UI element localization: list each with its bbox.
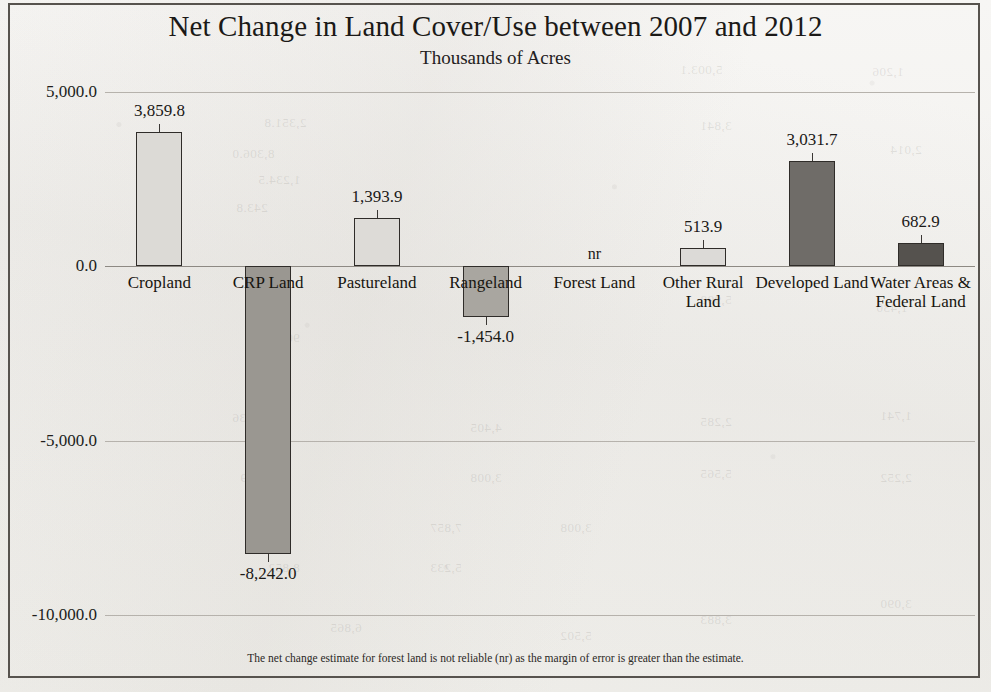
bar-value-label: 3,031.7 — [786, 130, 837, 150]
value-leader-tick — [159, 124, 160, 132]
category-label: Rangeland — [427, 274, 544, 292]
value-leader-tick — [921, 235, 922, 243]
bar-value-label: 682.9 — [902, 212, 940, 232]
gridline — [105, 92, 975, 93]
category-label: Developed Land — [754, 274, 871, 292]
bar-cropland — [136, 132, 182, 267]
bar-value-label: -1,454.0 — [457, 327, 514, 347]
bar-water-areas-federal-land — [898, 243, 944, 267]
plot-area: 5,000.00.0-5,000.0-10,000.0 3,859.8-8,24… — [105, 92, 975, 615]
zero-axis-line — [105, 266, 975, 267]
bar-value-label: 1,393.9 — [351, 187, 402, 207]
category-label: CRP Land — [210, 274, 327, 292]
value-leader-tick — [703, 240, 704, 248]
bar-value-label: 3,859.8 — [134, 101, 185, 121]
y-axis-tick-label: -10,000.0 — [1, 605, 97, 625]
category-label: Water Areas & Federal Land — [862, 274, 979, 311]
y-axis-tick-label: 0.0 — [1, 256, 97, 276]
category-label: Cropland — [101, 274, 218, 292]
value-leader-tick — [377, 210, 378, 218]
bar-value-label: -8,242.0 — [240, 564, 297, 584]
bar-crp-land — [245, 266, 291, 553]
bar-developed-land — [789, 161, 835, 267]
nr-annotation: nr — [588, 245, 601, 263]
chart-page: 2,351.88,306.01,234.5243.85,003.11,2063,… — [0, 0, 991, 692]
chart-title: Net Change in Land Cover/Use between 200… — [0, 10, 991, 43]
y-axis-tick-label: 5,000.0 — [1, 82, 97, 102]
y-axis-tick-label: -5,000.0 — [1, 431, 97, 451]
chart-footnote: The net change estimate for forest land … — [0, 652, 991, 664]
category-label: Other Rural Land — [645, 274, 762, 311]
bar-value-label: 513.9 — [684, 217, 722, 237]
gridline — [105, 615, 975, 616]
value-leader-tick — [268, 554, 269, 562]
value-leader-tick — [486, 317, 487, 325]
category-label: Forest Land — [536, 274, 653, 292]
gridline — [105, 441, 975, 442]
bar-other-rural-land — [680, 248, 726, 266]
bar-pastureland — [354, 218, 400, 267]
value-leader-tick — [812, 153, 813, 161]
category-label: Pastureland — [319, 274, 436, 292]
chart-subtitle: Thousands of Acres — [0, 47, 991, 69]
